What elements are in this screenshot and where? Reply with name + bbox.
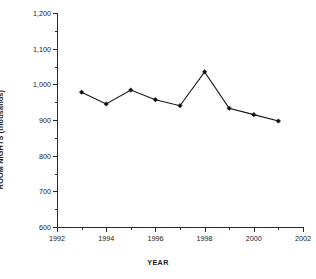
- x-tick-label: 1992: [49, 234, 65, 243]
- y-tick-label: 900: [39, 116, 51, 125]
- y-tick-label: 800: [39, 151, 51, 160]
- x-tick-label: 1996: [147, 234, 163, 243]
- series-markers: [79, 70, 280, 124]
- y-tick-label: 1,100: [33, 44, 51, 53]
- data-series: [57, 13, 303, 228]
- data-point: [153, 97, 158, 102]
- x-tick-label: 2000: [246, 234, 262, 243]
- plot-area: 6007008009001,0001,1001,200 199219941996…: [57, 13, 303, 227]
- y-tick-label: 1,000: [33, 80, 51, 89]
- series-line: [82, 72, 279, 121]
- x-tick-major: [303, 227, 304, 232]
- x-tick-label: 1998: [197, 234, 213, 243]
- x-tick-label: 1994: [98, 234, 114, 243]
- x-axis-title: YEAR: [0, 258, 316, 267]
- data-point: [79, 90, 84, 95]
- data-point: [129, 88, 134, 93]
- data-point: [276, 119, 281, 124]
- data-point: [252, 112, 257, 117]
- y-axis-title: ROOM NIGHTS (thousands): [0, 0, 44, 279]
- x-tick-label: 2002: [295, 234, 311, 243]
- y-tick-label: 600: [39, 223, 51, 232]
- y-tick-label: 1,200: [33, 9, 51, 18]
- data-point: [104, 102, 109, 107]
- line-chart: ROOM NIGHTS (thousands) 6007008009001,00…: [0, 0, 316, 279]
- y-tick-label: 700: [39, 187, 51, 196]
